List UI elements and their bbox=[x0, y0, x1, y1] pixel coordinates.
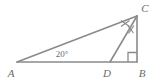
angle-tick-acd bbox=[121, 21, 130, 27]
vertex-label-d: D bbox=[102, 67, 111, 79]
segment-ac bbox=[17, 16, 137, 62]
right-angle-square-b bbox=[128, 53, 137, 63]
vertex-label-a: A bbox=[7, 67, 15, 79]
vertex-label-b: B bbox=[139, 67, 146, 79]
angle-label-a: 20° bbox=[56, 49, 69, 59]
geometry-diagram: A B C D 20° bbox=[0, 0, 158, 82]
vertex-label-c: C bbox=[141, 2, 149, 14]
geometry-figure: A B C D 20° bbox=[0, 0, 158, 82]
